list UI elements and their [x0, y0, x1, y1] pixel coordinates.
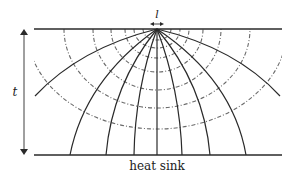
flow-line-7: [157, 29, 246, 155]
flow-line-1: [70, 29, 157, 155]
heat-sink-label: heat sink: [129, 159, 185, 173]
flow-line-6: [157, 29, 210, 155]
flow-line-2: [106, 29, 157, 155]
heat-spreading-diagram: l t heat sink: [0, 0, 297, 178]
thickness-label: t: [13, 85, 18, 99]
source-width-label: l: [155, 8, 159, 21]
heat-flow-lines: [35, 29, 280, 155]
flow-line-left-side: [35, 29, 157, 96]
flow-line-right-side: [157, 29, 280, 96]
